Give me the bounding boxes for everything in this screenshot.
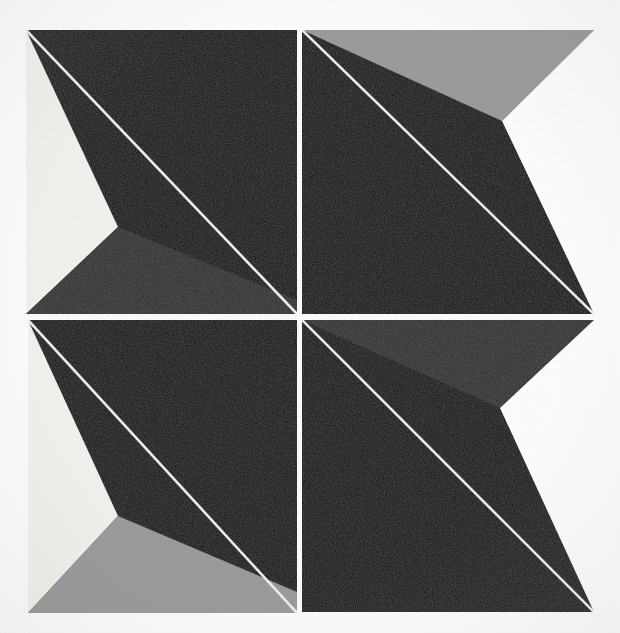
- panel-divider-vertical: [297, 28, 302, 616]
- artwork-canvas: Four Panel Geometric Composition: [0, 0, 620, 633]
- panel-divider-horizontal: [24, 314, 596, 320]
- panel-top-left: [26, 30, 297, 314]
- artwork-svg: [0, 0, 620, 633]
- panel-bottom-right: [302, 320, 594, 612]
- panel-top-right: [302, 30, 594, 314]
- panel-bottom-left: [28, 320, 297, 613]
